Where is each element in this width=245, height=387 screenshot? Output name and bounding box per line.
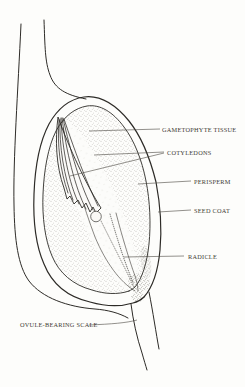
stalk-right-edge [149, 292, 159, 349]
label-cotyledons: COTYLEDONS [167, 149, 212, 156]
label-gametophyte-tissue: GAMETOPHYTE TISSUE [162, 126, 236, 133]
label-perisperm: PERISPERM [194, 178, 231, 185]
label-radicle: RADICLE [188, 253, 217, 260]
label-seed-coat: SEED COAT [194, 207, 230, 214]
stalk-left-edge [131, 304, 147, 370]
label-ovule-bearing-scale: OVULE-BEARING SCALE [20, 321, 98, 328]
seed-diagram-canvas: GAMETOPHYTE TISSUE COTYLEDONS PERISPERM … [0, 0, 245, 387]
seed-diagram-figure: GAMETOPHYTE TISSUE COTYLEDONS PERISPERM … [0, 0, 245, 387]
scale-right-edge [44, 20, 86, 99]
embryo-axis-circle [91, 211, 102, 222]
leader-seed-coat [158, 210, 191, 212]
